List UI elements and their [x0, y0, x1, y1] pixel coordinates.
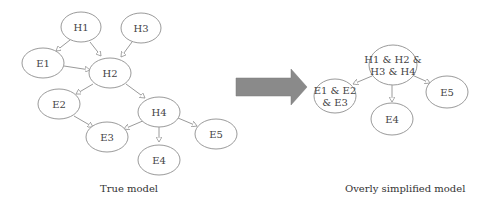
svg-text:H3 & H4: H3 & H4	[370, 66, 415, 77]
node-e4: E4	[138, 145, 180, 175]
edge-h3-h2	[121, 42, 132, 57]
node-e5-simplified: E5	[426, 76, 468, 108]
node-e5: E5	[195, 119, 237, 149]
node-e123-combined: E1 & E2 & E3	[314, 79, 357, 113]
svg-text:E1: E1	[36, 58, 50, 69]
svg-text:E4: E4	[152, 155, 166, 166]
node-h1: H1	[61, 12, 101, 42]
svg-text:H3: H3	[133, 23, 148, 34]
node-e1: E1	[22, 48, 64, 78]
edge-h-e123	[353, 76, 372, 84]
svg-text:E5: E5	[209, 129, 223, 140]
node-e4-simplified: E4	[371, 103, 413, 135]
edge-h1-e1	[56, 40, 70, 51]
edge-h4-e5	[178, 118, 197, 126]
edge-e1-h2	[64, 66, 90, 70]
node-h3: H3	[121, 13, 161, 43]
svg-text:E5: E5	[440, 87, 454, 98]
simplified-model-caption: Overly simplified model	[345, 183, 465, 194]
transform-arrow-icon	[236, 69, 307, 105]
svg-text:& E3: & E3	[322, 97, 348, 108]
svg-text:E2: E2	[52, 99, 66, 110]
svg-text:E4: E4	[385, 114, 399, 125]
edge-h2-h4	[126, 84, 145, 98]
svg-text:H1 & H2 &: H1 & H2 &	[364, 54, 422, 65]
node-e3: E3	[86, 122, 128, 152]
svg-text:H4: H4	[151, 107, 166, 118]
node-h-combined: H1 & H2 & H3 & H4	[364, 45, 422, 85]
edge-e2-e3	[74, 116, 93, 127]
diagram-canvas: H1 H3 E1 H2 E2 H4 E3 E4 E5 H1	[0, 0, 488, 206]
node-h2: H2	[89, 58, 131, 88]
svg-text:E3: E3	[100, 132, 114, 143]
true-model-edges	[56, 40, 197, 142]
edge-h2-e2	[76, 84, 93, 94]
node-h4: H4	[138, 97, 180, 127]
svg-text:H1: H1	[73, 22, 88, 33]
svg-text:H2: H2	[102, 68, 117, 79]
svg-text:E1 & E2: E1 & E2	[314, 85, 357, 96]
true-model-caption: True model	[100, 183, 158, 194]
edge-h1-h2	[90, 42, 101, 56]
node-e2: E2	[38, 89, 80, 119]
